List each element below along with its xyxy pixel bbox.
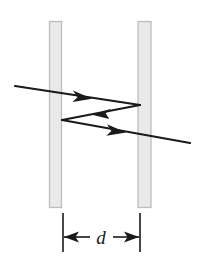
left-plate (50, 22, 62, 208)
dimension-group: d (63, 213, 140, 252)
reflected-ray-arrowhead (92, 109, 111, 119)
right-plate (138, 22, 151, 208)
figure-container: d (0, 0, 203, 265)
reflection-diagram-canvas: d (0, 0, 203, 265)
transmitted-ray (62, 120, 190, 143)
separation-label-d: d (96, 227, 106, 248)
